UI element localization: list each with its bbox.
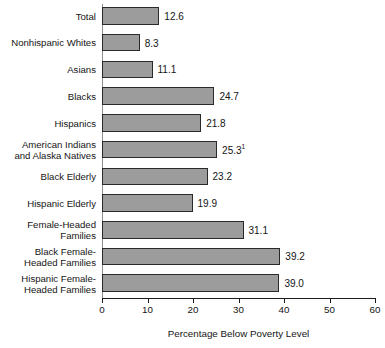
bar (102, 34, 140, 52)
bar-category-label-line: Hispanic Elderly (27, 198, 96, 209)
bar-row: Female-HeadedFamilies31.1 (0, 218, 385, 243)
bar-category-label-line: Female-Headed (27, 219, 96, 230)
bar-row: Blacks24.7 (0, 84, 385, 109)
bar-value-label: 39.2 (285, 251, 304, 262)
bar-value-number: 39.2 (285, 251, 304, 262)
bar-category-label: Female-HeadedFamilies (0, 218, 96, 243)
bar-row: Black Elderly23.2 (0, 164, 385, 189)
bar (102, 141, 217, 159)
x-axis-ticks: 0102030405060 (0, 298, 385, 318)
bar-category-label-line: Blacks (68, 91, 96, 102)
bar-category-label-line: Black Female- (35, 246, 96, 257)
bar-category-label: Black Elderly (0, 164, 96, 189)
x-axis-tick-label: 50 (324, 304, 335, 315)
bar-category-label: Blacks (0, 84, 96, 109)
bar-row: Total12.6 (0, 4, 385, 29)
bar-category-label-line: Black Elderly (41, 171, 96, 182)
bar (102, 221, 244, 239)
bar (102, 114, 201, 132)
bar-value-number: 24.7 (219, 91, 238, 102)
bar-category-label-line: Total (76, 11, 96, 22)
bar-value-label: 24.7 (219, 91, 238, 102)
x-axis-title: Percentage Below Poverty Level (102, 328, 375, 339)
bar-category-label: Hispanic Female-Headed Families (0, 271, 96, 296)
bar-value-label: 21.8 (206, 117, 225, 128)
x-axis-tick-mark (330, 298, 331, 303)
bar-value-label: 8.3 (145, 37, 159, 48)
x-axis-tick-mark (148, 298, 149, 303)
bar-category-label-line: Hispanics (54, 118, 96, 129)
bar-row: Nonhispanic Whites8.3 (0, 31, 385, 56)
x-axis-tick-label: 10 (142, 304, 153, 315)
bar-category-label: Black Female-Headed Families (0, 245, 96, 270)
bar-category-label: Hispanics (0, 111, 96, 136)
bar-value-number: 11.1 (158, 64, 177, 75)
bar (102, 274, 279, 292)
bar-category-label-line: Hispanic Female- (21, 273, 96, 284)
poverty-bar-chart: Total12.6Nonhispanic Whites8.3Asians11.1… (0, 0, 385, 348)
bar-row: Asians11.1 (0, 57, 385, 82)
bar-row: Hispanic Female-Headed Families39.0 (0, 271, 385, 296)
bar (102, 87, 214, 105)
bar-value-label: 25.31 (222, 144, 245, 155)
x-axis-tick-mark (284, 298, 285, 303)
bar-value-number: 23.2 (213, 171, 232, 182)
bar-row: American Indiansand Alaska Natives25.31 (0, 138, 385, 163)
bar (102, 61, 153, 79)
bar-value-number: 21.8 (206, 117, 225, 128)
bar-value-label: 11.1 (158, 64, 177, 75)
bar-rows-container: Total12.6Nonhispanic Whites8.3Asians11.1… (0, 4, 385, 298)
bar-category-label-line: and Alaska Natives (14, 150, 96, 161)
x-axis-tick-mark (102, 298, 103, 303)
bar-category-label: Asians (0, 57, 96, 82)
bar-value-number: 8.3 (145, 37, 159, 48)
bar-value-number: 19.9 (198, 198, 217, 209)
bar-category-label-line: Headed Families (24, 257, 96, 268)
bar-category-label-line: Families (60, 230, 96, 241)
bar-value-number: 31.1 (249, 224, 268, 235)
x-axis-tick-label: 0 (99, 304, 104, 315)
bar-category-label: Nonhispanic Whites (0, 31, 96, 56)
bar-value-label: 39.0 (284, 278, 303, 289)
bar (102, 248, 280, 266)
bar-category-label: Total (0, 4, 96, 29)
bar-value-number: 25.3 (222, 144, 241, 155)
bar-row: Hispanics21.8 (0, 111, 385, 136)
bar (102, 7, 159, 25)
bar-value-number: 12.6 (164, 10, 183, 21)
bar (102, 194, 193, 212)
bar-category-label-line: Nonhispanic Whites (11, 37, 96, 48)
bar-category-label: American Indiansand Alaska Natives (0, 138, 96, 163)
bar (102, 168, 208, 186)
x-axis-tick-label: 40 (279, 304, 290, 315)
x-axis-tick-label: 20 (188, 304, 199, 315)
x-axis-tick-mark (239, 298, 240, 303)
bar-category-label-line: Headed Families (24, 284, 96, 295)
bar-category-label: Hispanic Elderly (0, 191, 96, 216)
bar-row: Black Female-Headed Families39.2 (0, 245, 385, 270)
bar-value-label: 19.9 (198, 198, 217, 209)
bar-category-label-line: Asians (67, 64, 96, 75)
x-axis-tick-mark (193, 298, 194, 303)
bar-value-label: 31.1 (249, 224, 268, 235)
bar-value-label: 23.2 (213, 171, 232, 182)
bar-value-footnote-marker: 1 (242, 143, 246, 150)
bar-value-label: 12.6 (164, 10, 183, 21)
bar-category-label-line: American Indians (22, 139, 96, 150)
x-axis-tick-mark (375, 298, 376, 303)
x-axis-tick-label: 30 (233, 304, 244, 315)
bar-value-number: 39.0 (284, 278, 303, 289)
x-axis-tick-label: 60 (370, 304, 381, 315)
bar-row: Hispanic Elderly19.9 (0, 191, 385, 216)
